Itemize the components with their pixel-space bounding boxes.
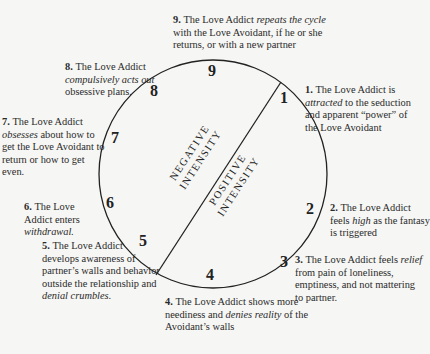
- stage-number-6: 6: [106, 194, 114, 212]
- stage-4-description: 4. The Love Addict shows more neediness …: [165, 296, 315, 334]
- stage-7-description: 7. The Love Addict obsesses about how to…: [2, 116, 107, 179]
- stage-number-label: 6.: [24, 201, 34, 212]
- stage-number-9: 9: [208, 62, 216, 80]
- stage-number-4: 4: [206, 266, 214, 284]
- stage-number-label: 9.: [173, 14, 183, 25]
- stage-5-description: 5. The Love Addict develops awareness of…: [42, 240, 162, 303]
- stage-2-description: 2. The Love Addict feels high as the fan…: [330, 202, 430, 240]
- stage-number-label: 8.: [65, 61, 75, 72]
- stage-1-description: 1. The Love Addict is attracted to the s…: [305, 84, 415, 134]
- stage-number-label: 5.: [42, 240, 52, 251]
- stage-number-label: 2.: [330, 202, 340, 213]
- stage-number-2: 2: [306, 200, 314, 218]
- stage-6-description: 6. The Love Addict enters withdrawal.: [24, 201, 102, 239]
- stage-9-description: 9. The Love Addict repeats the cycle wit…: [173, 14, 343, 52]
- stage-number-7: 7: [111, 129, 119, 147]
- stage-number-label: 7.: [2, 116, 12, 127]
- stage-8-description: 8. The Love Addict compulsively acts out…: [65, 61, 160, 99]
- stage-number-label: 3.: [295, 254, 305, 265]
- stage-number-label: 1.: [305, 84, 315, 95]
- stage-number-3: 3: [280, 253, 288, 271]
- stage-number-1: 1: [280, 89, 288, 107]
- stage-number-label: 4.: [165, 296, 175, 307]
